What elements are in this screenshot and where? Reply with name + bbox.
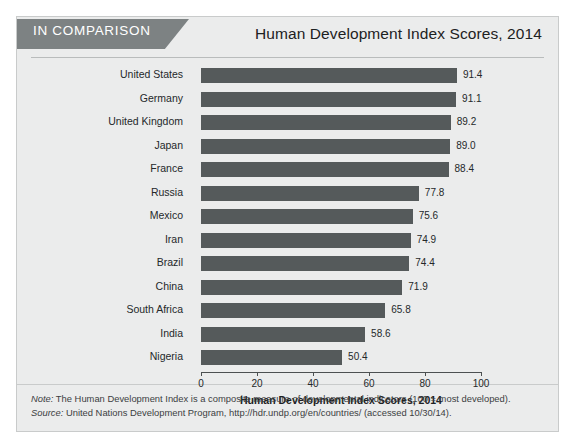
bar — [201, 233, 411, 248]
figure-card: IN COMPARISON Human Development Index Sc… — [16, 16, 559, 432]
bar-category-label: India — [31, 327, 183, 339]
bar-category-label: Japan — [31, 139, 183, 151]
x-axis-tick — [257, 372, 258, 376]
in-comparison-label: IN COMPARISON — [33, 23, 151, 38]
bar-category-label: Iran — [31, 233, 183, 245]
bar-track: 74.4 — [201, 253, 544, 274]
bar-value-label: 75.6 — [419, 210, 438, 221]
bar-row: United Kingdom89.2 — [31, 112, 544, 133]
bar-category-label: Germany — [31, 92, 183, 104]
bar-value-label: 74.4 — [415, 257, 434, 268]
x-axis-tick — [425, 372, 426, 376]
x-axis-tick — [201, 372, 202, 376]
bar-category-label: United States — [31, 68, 183, 80]
bar-category-label: Russia — [31, 186, 183, 198]
bar-value-label: 50.4 — [348, 351, 367, 362]
note-text: The Human Development Index is a composi… — [53, 393, 510, 404]
bar-track: 65.8 — [201, 300, 544, 321]
x-axis-tick-label: 0 — [198, 378, 204, 389]
bar-track: 58.6 — [201, 324, 544, 345]
x-axis-tick-label: 40 — [307, 378, 318, 389]
footnotes: Note: The Human Development Index is a c… — [31, 392, 544, 420]
note-label: Note: — [31, 393, 53, 404]
bar-value-label: 89.0 — [456, 140, 475, 151]
bar-row: Nigeria50.4 — [31, 347, 544, 368]
bar-track: 50.4 — [201, 347, 544, 368]
bar-track: 89.0 — [201, 136, 544, 157]
x-axis-tick-label: 20 — [251, 378, 262, 389]
header-divider — [31, 57, 544, 58]
bar-row: France88.4 — [31, 159, 544, 180]
x-axis-tick — [313, 372, 314, 376]
bar-track: 75.6 — [201, 206, 544, 227]
bar-value-label: 88.4 — [455, 163, 474, 174]
bar — [201, 350, 342, 365]
x-axis-tick — [481, 372, 482, 376]
bar-row: China71.9 — [31, 277, 544, 298]
bar-chart-plot: United States91.4Germany91.1United Kingd… — [31, 65, 544, 371]
bar-category-label: Mexico — [31, 209, 183, 221]
bar — [201, 162, 449, 177]
bar-track: 71.9 — [201, 277, 544, 298]
bar — [201, 209, 413, 224]
bar — [201, 280, 402, 295]
bar-track: 77.8 — [201, 183, 544, 204]
bar-row: Japan89.0 — [31, 136, 544, 157]
bar-track: 91.1 — [201, 89, 544, 110]
bar-value-label: 77.8 — [425, 187, 444, 198]
bar-row: Iran74.9 — [31, 230, 544, 251]
source-label: Source: — [31, 407, 63, 418]
chart-title: Human Development Index Scores, 2014 — [255, 25, 542, 43]
bar-row: India58.6 — [31, 324, 544, 345]
bar-value-label: 65.8 — [391, 304, 410, 315]
bar-row: Brazil74.4 — [31, 253, 544, 274]
x-axis-tick-label: 80 — [419, 378, 430, 389]
bar-value-label: 58.6 — [371, 328, 390, 339]
x-axis-tick-label: 100 — [473, 378, 490, 389]
source-text: United Nations Development Program, http… — [63, 407, 451, 418]
bar-value-label: 89.2 — [457, 116, 476, 127]
bar-track: 91.4 — [201, 65, 544, 86]
bar — [201, 139, 450, 154]
bar-category-label: Brazil — [31, 256, 183, 268]
bar-category-label: South Africa — [31, 303, 183, 315]
x-axis-line — [201, 372, 481, 373]
bar-row: Germany91.1 — [31, 89, 544, 110]
bar — [201, 115, 451, 130]
footnote-source: Source: United Nations Development Progr… — [31, 406, 544, 420]
bar — [201, 186, 419, 201]
bar-category-label: France — [31, 162, 183, 174]
bar-row: Mexico75.6 — [31, 206, 544, 227]
bar-category-label: Nigeria — [31, 350, 183, 362]
bar-value-label: 91.4 — [463, 69, 482, 80]
bar-row: South Africa65.8 — [31, 300, 544, 321]
bar — [201, 68, 457, 83]
bar-track: 88.4 — [201, 159, 544, 180]
bar-value-label: 74.9 — [417, 234, 436, 245]
bar — [201, 256, 409, 271]
footnote-note: Note: The Human Development Index is a c… — [31, 392, 544, 406]
x-axis-tick-label: 60 — [363, 378, 374, 389]
bar-category-label: China — [31, 280, 183, 292]
bar-row: Russia77.8 — [31, 183, 544, 204]
bar-track: 74.9 — [201, 230, 544, 251]
figure-header: IN COMPARISON Human Development Index Sc… — [17, 17, 558, 55]
x-axis-tick — [369, 372, 370, 376]
bar — [201, 303, 385, 318]
bar-value-label: 91.1 — [462, 93, 481, 104]
bar — [201, 327, 365, 342]
bar-track: 89.2 — [201, 112, 544, 133]
bar — [201, 92, 456, 107]
bar-value-label: 71.9 — [408, 281, 427, 292]
bar-category-label: United Kingdom — [31, 115, 183, 127]
bar-row: United States91.4 — [31, 65, 544, 86]
